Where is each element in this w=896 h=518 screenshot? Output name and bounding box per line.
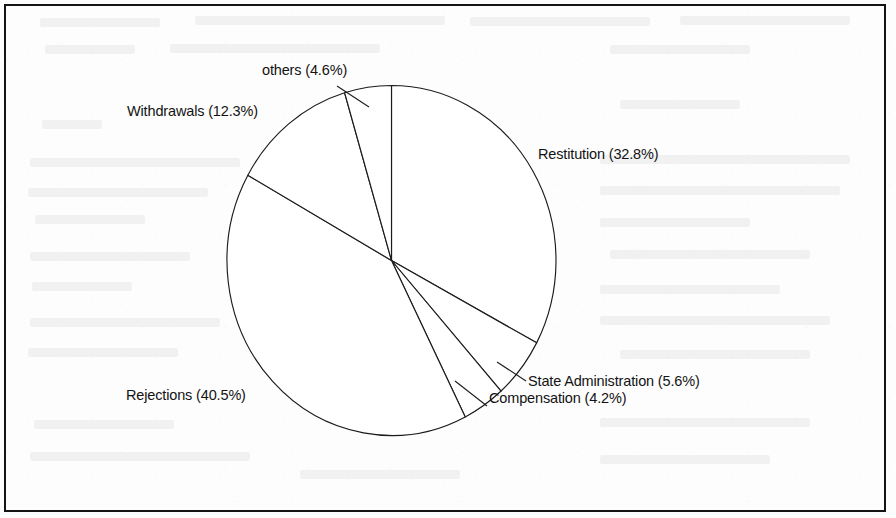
pie-chart: others (4.6%) Withdrawals (12.3%) Restit… [0,0,896,518]
pie-label-others: others (4.6%) [262,62,347,78]
pie-slice-group [227,86,556,436]
pie-label-state-administration: State Administration (5.6%) [528,373,700,389]
pie-chart-svg [0,0,896,518]
pie-label-withdrawals: Withdrawals (12.3%) [127,103,258,119]
pie-label-compensation: Compensation (4.2%) [489,390,626,406]
pie-label-restitution: Restitution (32.8%) [538,146,658,162]
pie-label-rejections: Rejections (40.5%) [126,387,246,403]
figure-page: others (4.6%) Withdrawals (12.3%) Restit… [0,0,896,518]
